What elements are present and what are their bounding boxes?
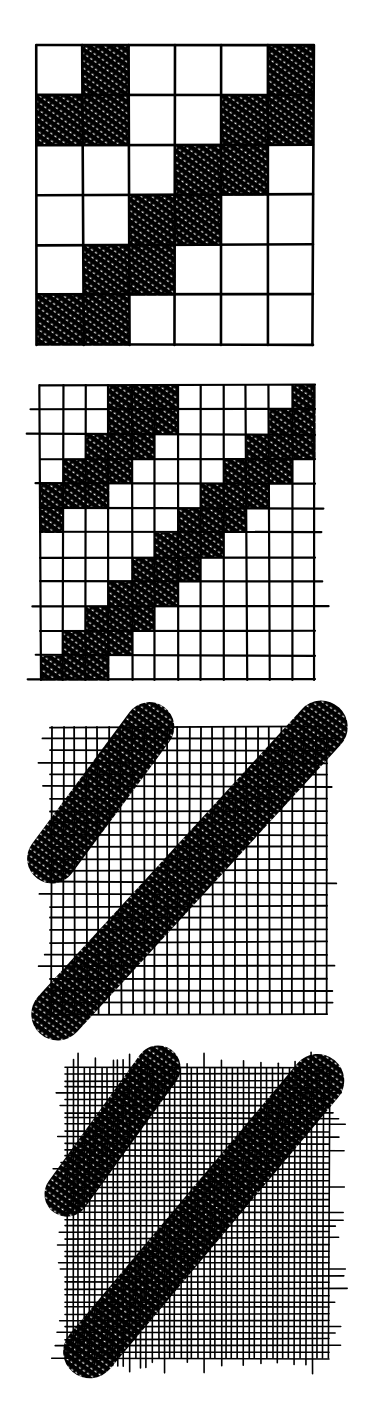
filled-cell: [155, 557, 178, 582]
filled-cell: [83, 245, 130, 296]
grid-panel-grid-24: [52, 727, 327, 1014]
filled-cell: [129, 245, 176, 296]
filled-cell: [40, 655, 63, 680]
filled-cell: [40, 483, 63, 508]
diagonal-band: [52, 727, 149, 859]
filled-cell: [63, 483, 86, 508]
filled-cell: [223, 508, 246, 533]
filled-cell: [83, 45, 130, 96]
filled-cell: [86, 434, 109, 459]
filled-cell: [175, 145, 222, 196]
filled-cell: [221, 145, 268, 196]
filled-cell: [86, 655, 109, 680]
filled-cell: [269, 459, 292, 484]
filled-cell: [109, 385, 132, 410]
filled-cell: [86, 459, 109, 484]
filled-cell: [129, 195, 176, 246]
filled-cell: [109, 410, 132, 435]
filled-cell: [132, 557, 155, 582]
grid-panel-grid-12: [40, 385, 315, 680]
filled-cell: [246, 459, 269, 484]
filled-cell: [132, 582, 155, 607]
filled-cell: [200, 533, 223, 558]
grid-drawing: [37, 45, 313, 345]
filled-cells: [67, 1068, 318, 1352]
filled-cell: [178, 533, 201, 558]
filled-cell: [221, 95, 268, 146]
filled-cell: [267, 45, 314, 96]
filled-cell: [292, 410, 315, 435]
filled-cell: [132, 434, 155, 459]
filled-cell: [86, 606, 109, 631]
filled-cell: [200, 508, 223, 533]
filled-cell: [109, 434, 132, 459]
filled-cell: [246, 434, 269, 459]
filled-cell: [37, 295, 84, 346]
filled-cell: [223, 459, 246, 484]
filled-cell: [178, 508, 201, 533]
filled-cell: [246, 483, 269, 508]
filled-cell: [37, 95, 84, 146]
filled-cell: [292, 434, 315, 459]
filled-cell: [86, 631, 109, 656]
filled-cell: [109, 459, 132, 484]
grid-drawing: [52, 727, 327, 1014]
filled-cell: [155, 410, 178, 435]
filled-cell: [63, 655, 86, 680]
filled-cell: [200, 483, 223, 508]
filled-cell: [267, 95, 314, 146]
filled-cell: [83, 295, 130, 346]
filled-cell: [109, 606, 132, 631]
filled-cell: [86, 483, 109, 508]
filled-cell: [109, 582, 132, 607]
filled-cell: [40, 508, 63, 533]
filled-cell: [63, 631, 86, 656]
filled-cell: [269, 434, 292, 459]
filled-cell: [269, 410, 292, 435]
filled-cell: [132, 606, 155, 631]
filled-cell: [155, 582, 178, 607]
grid-drawing: [67, 1068, 329, 1358]
filled-cell: [109, 631, 132, 656]
filled-cell: [155, 385, 178, 410]
grid-panel-grid-6: [37, 45, 313, 345]
filled-cell: [63, 459, 86, 484]
filled-cell: [178, 557, 201, 582]
filled-cell: [223, 483, 246, 508]
filled-cell: [132, 410, 155, 435]
filled-cell: [292, 385, 315, 410]
filled-cell: [155, 533, 178, 558]
filled-cell: [83, 95, 130, 146]
filled-cell: [132, 385, 155, 410]
grid-drawing: [40, 385, 315, 680]
filled-cell: [175, 195, 222, 246]
grid-panel-grid-48: [67, 1068, 329, 1358]
